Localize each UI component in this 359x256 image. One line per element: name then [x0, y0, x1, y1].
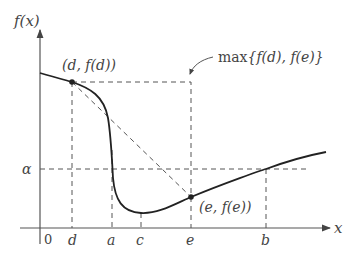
d-point-label: (d, f(d)) — [62, 57, 116, 73]
function-curve — [40, 73, 326, 213]
max-annotation-prefix: max — [218, 49, 248, 65]
tick-alpha-label: α — [22, 161, 32, 177]
diagram-canvas: f(x) x 0 d a c e b α (d, f(d)) (e, f(e))… — [0, 0, 359, 256]
max-annotation: max{f(d), f(e)} — [218, 49, 324, 65]
annotation-arrow — [190, 57, 213, 74]
x-axis-label: x — [334, 219, 343, 237]
tick-e-label: e — [186, 232, 194, 248]
tick-d-label: d — [68, 232, 77, 248]
tick-b-label: b — [261, 232, 270, 248]
tick-c-label: c — [136, 232, 144, 248]
e-point-label: (e, f(e)) — [199, 199, 252, 215]
d-point-marker — [69, 79, 75, 85]
e-point-marker — [188, 194, 194, 200]
chord-d-e — [72, 82, 191, 197]
origin-label: 0 — [44, 232, 52, 247]
y-axis-label: f(x) — [13, 12, 40, 30]
tick-a-label: a — [107, 232, 115, 248]
max-annotation-text: {f(d), f(e)} — [248, 49, 324, 65]
